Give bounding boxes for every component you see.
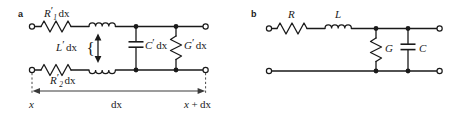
- label-b-c: C: [419, 42, 427, 54]
- panel-b-label: b: [251, 9, 257, 19]
- junction-dot-cond-top: [174, 24, 179, 29]
- dimension-label-x-plus-dx: x+dx: [183, 98, 212, 110]
- conductance-branch-g: [171, 24, 182, 72]
- label-b-r: R: [287, 8, 295, 20]
- panel-a-label: a: [18, 9, 24, 19]
- capacitor-branch-b: [401, 26, 416, 73]
- terminal-bottom-left: [29, 67, 34, 72]
- label-b-g: G: [385, 42, 393, 54]
- label-r1-suffix: dx: [58, 7, 70, 19]
- label-r2-sub: 2: [59, 80, 63, 89]
- terminal-b-bottom-left: [266, 68, 271, 73]
- dimension-label-x2: x: [183, 98, 189, 110]
- resistor-symbol-r: [277, 23, 307, 34]
- panel-b-bottom-rail: [266, 68, 442, 73]
- label-g: G′dx: [184, 36, 207, 52]
- label-l-suffix: dx: [66, 41, 78, 53]
- junction-dot-bc-bottom: [406, 69, 411, 74]
- label-g-main: G: [184, 39, 192, 51]
- junction-dot-bc-top: [406, 26, 411, 31]
- dimension-arrowhead-right: [198, 88, 206, 94]
- label-r2-suffix: dx: [64, 74, 76, 86]
- label-l: L′dx: [55, 38, 78, 54]
- junction-dot-bg-top: [374, 26, 379, 31]
- label-r1-sub: 1: [53, 13, 57, 22]
- resistor-symbol-r1: [41, 21, 71, 32]
- terminal-top-left: [29, 24, 34, 29]
- label-l-main: L: [55, 41, 62, 53]
- junction-dot-bg-bottom: [374, 69, 379, 74]
- panel-a: a: [18, 4, 212, 111]
- label-c-suffix: dx: [156, 39, 168, 51]
- circuit-figure: a: [0, 0, 462, 116]
- terminal-b-bottom-right: [437, 68, 442, 73]
- dimension-label-dx: dx: [111, 98, 123, 110]
- panel-b-top-rail: [266, 23, 442, 34]
- label-g-prime: ′: [192, 36, 194, 48]
- label-c-prime: ′: [152, 36, 154, 48]
- terminal-bottom-right: [203, 67, 208, 72]
- dimension-label-dx2: dx: [200, 98, 212, 110]
- junction-dot-cap-bottom: [134, 68, 139, 73]
- label-l-prime: ′: [62, 38, 64, 50]
- circuit-svg: a: [0, 0, 462, 116]
- label-c: C′dx: [145, 36, 168, 52]
- conductance-branch-b: [371, 26, 382, 73]
- coupling-arrowhead-up: [95, 34, 102, 41]
- junction-dot-cond-bottom: [174, 68, 179, 73]
- resistor-symbol-g: [171, 36, 182, 60]
- inductor-symbol-bottom: [89, 70, 115, 74]
- dimension-arrowhead-left: [33, 88, 41, 94]
- dimension-label-x: x: [28, 98, 34, 110]
- capacitor-branch-c: [129, 24, 144, 72]
- resistor-symbol-g-b: [371, 38, 382, 62]
- label-b-l: L: [334, 8, 341, 20]
- panel-a-top-rail: [29, 21, 208, 32]
- inductor-symbol-top: [89, 23, 115, 27]
- label-r2: R′2dx: [49, 71, 76, 90]
- junction-dot-cap-top: [134, 24, 139, 29]
- label-r1: R′1dx: [43, 4, 70, 23]
- label-g-suffix: dx: [196, 39, 208, 51]
- dimension-label-plus: +: [191, 98, 197, 110]
- panel-b: b: [251, 8, 442, 74]
- terminal-top-right: [203, 24, 208, 29]
- terminal-b-top-left: [266, 26, 271, 31]
- inductor-coupling-indicator: {: [87, 34, 102, 64]
- coupling-arrowhead-down: [95, 56, 102, 63]
- brace-glyph: {: [87, 39, 95, 58]
- inductor-symbol-l: [325, 25, 351, 29]
- terminal-b-top-right: [437, 26, 442, 31]
